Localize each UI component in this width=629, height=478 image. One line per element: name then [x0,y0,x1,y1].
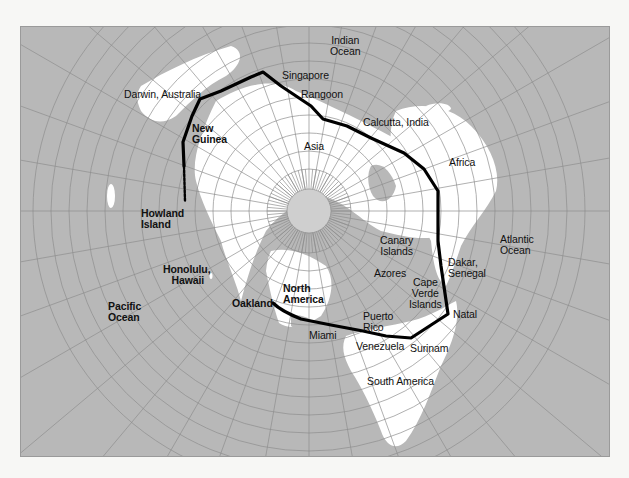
label-south-america: South America [367,376,434,387]
label-singapore: Singapore [282,70,329,81]
label-natal: Natal [453,309,477,320]
label-honolulu: Honolulu, Hawaii [163,264,211,286]
label-atlantic-ocean: Atlantic Ocean [500,234,534,256]
label-azores: Azores [374,268,406,279]
label-indian-ocean: Indian Ocean [330,35,360,57]
label-north-america: North America [283,283,324,305]
label-howland-island: Howland Island [141,208,184,230]
label-surinam: Surinam [410,343,448,354]
label-calcutta: Calcutta, India [363,117,429,128]
label-pacific-ocean: Pacific Ocean [108,301,141,323]
land-south-america [343,301,457,446]
route-dashed [184,166,185,201]
label-venezuela: Venezuela [356,341,404,352]
label-oakland: Oakland [232,298,273,309]
label-africa: Africa [449,157,475,168]
label-rangoon: Rangoon [301,89,343,100]
label-dakar: Dakar, Senegal [448,257,486,279]
label-darwin: Darwin, Australia [124,89,201,100]
map-frame: Indian Ocean Singapore Rangoon Darwin, A… [20,26,610,457]
label-asia: Asia [304,141,324,152]
label-canary-islands: Canary Islands [380,235,413,257]
label-puerto-rico: Puerto Rico [363,311,393,333]
label-miami: Miami [309,330,337,341]
label-cape-verde: Cape Verde Islands [409,277,442,310]
label-new-guinea: New Guinea [192,123,227,145]
